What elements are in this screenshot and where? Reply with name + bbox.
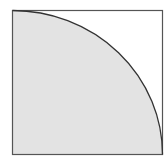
quarter-circle-region [13,11,163,155]
diagram-canvas [0,0,166,163]
